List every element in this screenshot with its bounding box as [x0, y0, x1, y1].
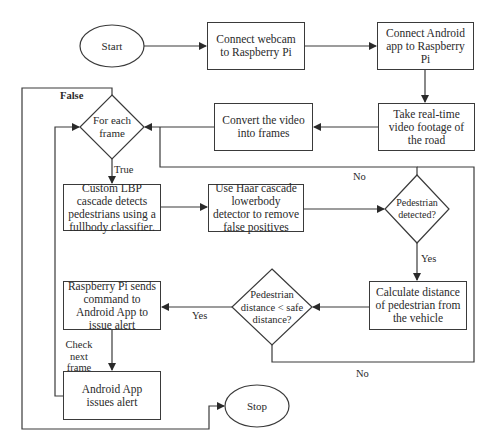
connect-android-text: Connect Android app to Raspberry Pi [381, 27, 470, 66]
convert-video-text: Convert the video into frames [218, 114, 309, 140]
for-each-frame-text: For each frame [84, 114, 140, 140]
haar-cascade-box: Use Haar cascade lowerbody detector to r… [208, 184, 304, 232]
take-footage-box: Take real-time video footage of the road [378, 103, 475, 151]
distance-check-decision: Pedestrian distance < safe distance? [238, 288, 306, 328]
connect-webcam-box: Connect webcam to Raspberry Pi [207, 22, 305, 70]
take-footage-text: Take real-time video footage of the road [382, 108, 471, 147]
send-command-text: Raspberry Pi sends command to Android Ap… [67, 280, 157, 332]
distance-check-text: Pedestrian distance < safe distance? [238, 289, 306, 327]
convert-video-box: Convert the video into frames [214, 103, 313, 151]
false-edge-label: False [60, 90, 83, 101]
yes-detected-edge-label: Yes [421, 253, 436, 264]
true-edge-label: True [114, 164, 133, 175]
calc-distance-text: Calculate distance of pedestrian from th… [373, 286, 463, 325]
issue-alert-box: Android App issues alert [63, 371, 161, 420]
check-next-frame-label: Check next frame [63, 339, 95, 374]
pedestrian-detected-text: Pedestrian detected? [389, 197, 445, 221]
no-distance-edge-label: No [356, 368, 369, 379]
connect-android-box: Connect Android app to Raspberry Pi [377, 22, 474, 70]
start-terminal: Start [80, 25, 144, 67]
start-label: Start [102, 40, 123, 53]
connect-webcam-text: Connect webcam to Raspberry Pi [211, 33, 301, 59]
yes-distance-edge-label: Yes [192, 310, 207, 321]
for-each-frame-decision: For each frame [84, 110, 140, 144]
pedestrian-detected-decision: Pedestrian detected? [389, 192, 445, 226]
calc-distance-box: Calculate distance of pedestrian from th… [369, 281, 467, 330]
send-command-box: Raspberry Pi sends command to Android Ap… [63, 281, 161, 330]
lbp-cascade-text: Custom LBP cascade detects pedestrians u… [67, 182, 157, 234]
stop-terminal: Stop [225, 385, 289, 427]
issue-alert-text: Android App issues alert [67, 383, 157, 409]
no-detected-edge-label: No [353, 171, 366, 182]
lbp-cascade-box: Custom LBP cascade detects pedestrians u… [63, 184, 161, 231]
stop-label: Stop [247, 400, 267, 413]
haar-cascade-text: Use Haar cascade lowerbody detector to r… [212, 182, 300, 234]
